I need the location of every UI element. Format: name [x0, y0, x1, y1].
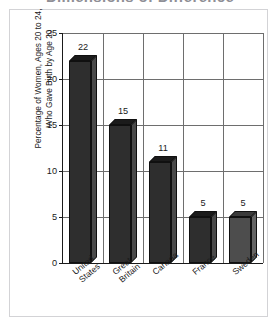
gridline-x-1	[103, 33, 104, 263]
bar-value-label-3: 5	[189, 198, 217, 208]
bar-value-label-0: 22	[69, 42, 97, 52]
gridline-x-3	[183, 33, 184, 263]
bar-value-label-2: 11	[149, 143, 177, 153]
plot-area: 051015202522151155	[63, 33, 263, 263]
y-tick-label-20: 20	[47, 74, 57, 84]
y-tick-mark-25	[59, 33, 63, 34]
bar-1[interactable]	[109, 125, 131, 263]
y-tick-mark-20	[59, 79, 63, 80]
y-tick-mark-15	[59, 125, 63, 126]
bar-value-label-1: 15	[109, 106, 137, 116]
gridline-x-4	[223, 33, 224, 263]
bar-2[interactable]	[149, 162, 171, 263]
gridline-x-2	[143, 33, 144, 263]
gridline-y-25	[63, 33, 263, 34]
bar-side-face	[171, 156, 177, 263]
y-tick-label-25: 25	[47, 28, 57, 38]
y-tick-mark-10	[59, 171, 63, 172]
bar-front-face	[149, 162, 171, 263]
plot-inner: 051015202522151155	[63, 33, 263, 263]
y-tick-mark-5	[59, 217, 63, 218]
bar-0[interactable]	[69, 61, 91, 263]
bar-side-face	[91, 55, 97, 263]
y-tick-label-5: 5	[52, 212, 57, 222]
y-tick-mark-0	[59, 263, 63, 264]
y-tick-label-10: 10	[47, 166, 57, 176]
chart-frame: Percentage of Women, Ages 20 to 24, Who …	[9, 9, 268, 317]
gridline-x-5	[263, 33, 264, 263]
bar-front-face	[69, 61, 91, 263]
y-tick-label-0: 0	[52, 258, 57, 268]
bar-value-label-4: 5	[229, 198, 257, 208]
y-tick-label-15: 15	[47, 120, 57, 130]
bar-side-face	[131, 119, 137, 263]
bar-front-face	[109, 125, 131, 263]
